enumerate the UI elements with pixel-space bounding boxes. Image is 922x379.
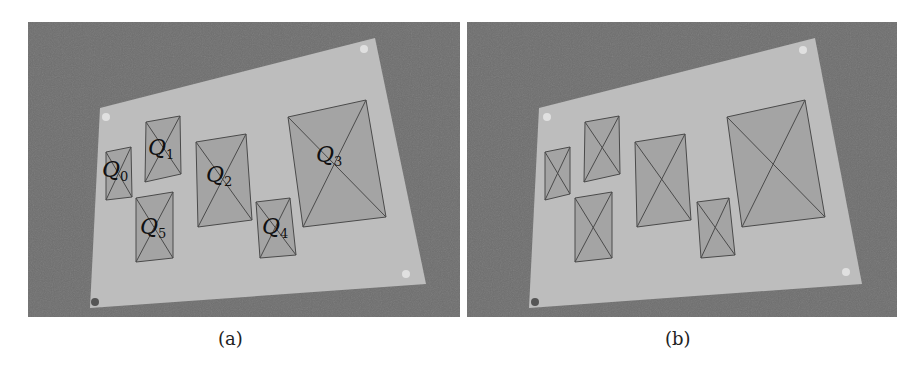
pin-icon: [799, 46, 807, 54]
pin-icon: [102, 113, 110, 121]
board-photo-b: [467, 22, 897, 317]
board-photo-a: Q0 Q1 Q2 Q3 Q4 Q5: [28, 22, 460, 317]
pin-icon: [531, 298, 539, 306]
pin-icon: [360, 45, 368, 53]
panel-b-image: [467, 22, 897, 317]
pin-icon: [402, 270, 410, 278]
panel-a-image: Q0 Q1 Q2 Q3 Q4 Q5: [28, 22, 460, 317]
pin-icon: [91, 298, 99, 306]
pin-icon: [842, 268, 850, 276]
caption-a: (a): [218, 328, 243, 349]
caption-b: (b): [665, 328, 691, 349]
pin-icon: [543, 113, 551, 121]
